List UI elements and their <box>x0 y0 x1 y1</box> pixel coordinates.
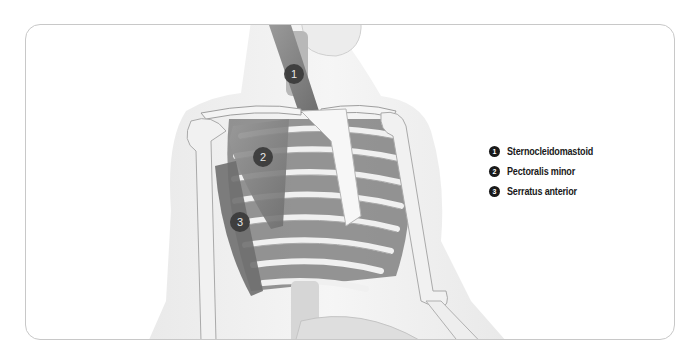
marker-number: 2 <box>260 151 266 163</box>
legend-item-sternocleidomastoid: 1 Sternocleidomastoid <box>489 142 612 160</box>
legend-item-serratus-anterior: 3 Serratus anterior <box>489 182 612 200</box>
legend: 1 Sternocleidomastoid 2 Pectoralis minor… <box>489 142 612 202</box>
number-badge-icon: 1 <box>489 146 500 157</box>
diagram-frame: 1 2 3 1 Sternocleidomastoid 2 Pectoralis… <box>25 24 675 340</box>
marker-2: 2 <box>253 147 273 167</box>
marker-number: 3 <box>237 216 243 228</box>
number-badge-icon: 2 <box>489 166 500 177</box>
legend-label: Serratus anterior <box>507 185 577 197</box>
legend-label: Pectoralis minor <box>507 165 575 177</box>
number-badge-icon: 3 <box>489 186 500 197</box>
marker-3: 3 <box>230 212 250 232</box>
legend-item-pectoralis-minor: 2 Pectoralis minor <box>489 162 612 180</box>
marker-number: 1 <box>291 68 297 80</box>
marker-1: 1 <box>284 64 304 84</box>
legend-label: Sternocleidomastoid <box>507 145 593 157</box>
